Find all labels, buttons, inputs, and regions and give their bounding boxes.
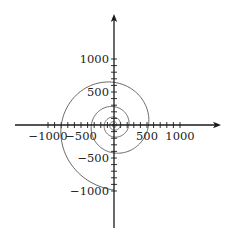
y-tick-label: −500 bbox=[77, 151, 109, 165]
x-tick-label: −500 bbox=[65, 129, 97, 143]
y-tick-label: 1000 bbox=[80, 52, 109, 66]
x-tick-label: 500 bbox=[136, 129, 158, 143]
x-tick-label: 1000 bbox=[165, 129, 194, 143]
x-tick-label: −1000 bbox=[29, 129, 68, 143]
spiral-chart: −1000−5005001000 1000500−500−1000 bbox=[0, 0, 231, 240]
y-tick-label: −1000 bbox=[70, 184, 109, 198]
y-tick-label: 500 bbox=[87, 85, 109, 99]
